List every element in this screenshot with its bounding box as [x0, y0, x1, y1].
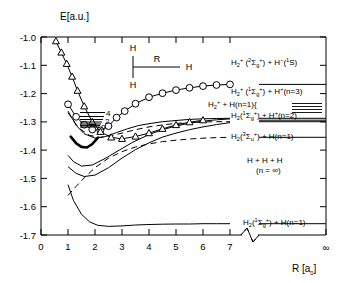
geometry-atom-right-label: H	[186, 62, 193, 72]
y-tick-label: -1.1	[20, 60, 36, 71]
x-tick-label: 1	[65, 241, 70, 252]
x-axis-title-main: R [a	[292, 263, 311, 274]
y-axis-title: E[a.u.]	[60, 11, 89, 22]
asymptote-label-h2-3sigmau-h-n1: H2(3Σu+) + H(n=1)	[231, 131, 294, 142]
x-tick-label: 5	[173, 241, 178, 252]
geometry-atom-top-label: H	[130, 43, 137, 53]
svg-text:H2(3Σu+) + H(n=1): H2(3Σu+) + H(n=1)	[231, 131, 294, 142]
y-tick-label: -1.7	[20, 230, 36, 241]
asymptote-label-h2-1sigmag-hplus-n2: H2(1Σg+) + H+(n=2)	[231, 110, 297, 121]
h-h-h-line2: (n = ∞)	[256, 166, 281, 175]
x-tick-label: 2	[92, 241, 97, 252]
svg-text:H2(1Σg+) + H(n=1): H2(1Σg+) + H(n=1)	[243, 217, 306, 228]
y-tick-label: -1.4	[20, 145, 36, 156]
geometry-inset: H H H R	[130, 43, 193, 90]
svg-text:R [a0]: R [a0]	[292, 263, 316, 276]
vibrational-level-label-2: 2	[105, 117, 110, 126]
x-tick-label: 4	[146, 241, 151, 252]
x-tick-label: 0	[38, 241, 43, 252]
axis-break-zigzag	[241, 228, 259, 242]
curve-ground-state	[68, 185, 230, 227]
x-axis-title: R [a0]	[292, 263, 316, 276]
x-tick-label: 3	[119, 241, 124, 252]
x-axis-title-end: ]	[313, 263, 316, 274]
vibrational-level-label-0: 0	[101, 123, 106, 132]
x-tick-label-infinity: ∞	[323, 242, 330, 253]
y-tick-label: -1.6	[20, 201, 36, 212]
asymptote-label-h2plus-h-n1: H2+ + H(n=1){	[208, 99, 257, 110]
y-tick-label: -1.0	[20, 32, 36, 43]
potential-energy-curve-figure: -1.0 -1.1 -1.2 -1.3 -1.4 -1.5 -1.6 -1.7 …	[0, 0, 344, 283]
geometry-atom-bottom-label: H	[130, 80, 137, 90]
asymptote-label-ground-state: H2(1Σg+) + H(n=1)	[243, 217, 306, 228]
svg-text:H2+ (1Σg+) + H+(n=3): H2+ (1Σg+) + H+(n=3)	[231, 86, 303, 97]
y-tick-label: -1.5	[20, 173, 36, 184]
geometry-distance-label: R	[154, 54, 161, 64]
asymptote-label-h2plus-1sigmag-hplus-n3: H2+ (1Σg+) + H+(n=3)	[231, 86, 303, 97]
h-h-h-line1: H + H + H	[247, 156, 283, 165]
y-tick-label: -1.3	[20, 116, 36, 127]
x-tick-label: 7	[227, 241, 232, 252]
y-tick-label: -1.2	[20, 88, 36, 99]
svg-text:H2+ (2Σg+) + H−(1S): H2+ (2Σg+) + H−(1S)	[231, 57, 298, 68]
x-tick-label: 6	[200, 241, 205, 252]
svg-text:H2(1Σg+) + H+(n=2): H2(1Σg+) + H+(n=2)	[231, 110, 297, 121]
chart-svg: -1.0 -1.1 -1.2 -1.3 -1.4 -1.5 -1.6 -1.7 …	[0, 0, 344, 283]
asymptote-label-h2plus-2sigmag-hminus: H2+ (2Σg+) + H−(1S)	[231, 57, 298, 68]
curve-h2-3sigma-u-dashed	[68, 137, 230, 195]
curve-bold-well	[71, 137, 98, 148]
asymptote-label-h-h-h: H + H + H (n = ∞)	[247, 156, 283, 175]
svg-text:H2+ + H(n=1){: H2+ + H(n=1){	[208, 99, 257, 110]
